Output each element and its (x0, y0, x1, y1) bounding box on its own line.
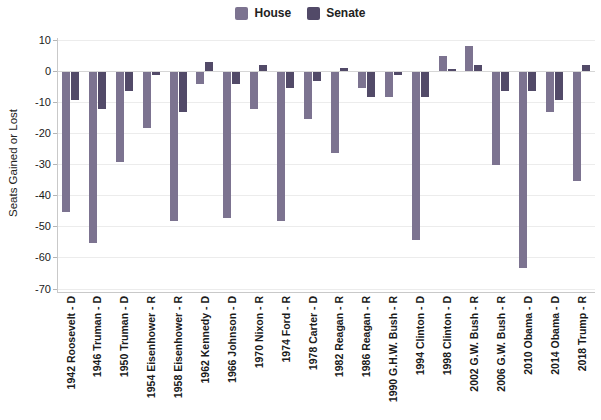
gridline-0 (57, 71, 595, 72)
bar-house-1970 (250, 72, 258, 109)
x-axis-label-1942: 1942 Roosevelt - D (64, 296, 78, 414)
bar-house-2002 (465, 46, 473, 71)
bar-senate-1986 (367, 72, 375, 97)
x-axis-label-1978: 1978 Carter - D (306, 296, 320, 414)
x-axis-label-2018: 2018 Trump - R (575, 296, 589, 414)
bar-house-1990 (385, 72, 393, 97)
bar-senate-1974 (286, 72, 294, 88)
bar-senate-2014 (555, 72, 563, 100)
bar-house-1958 (170, 72, 178, 221)
y-tick-label--60: -60 (15, 250, 51, 264)
bar-senate-1994 (421, 72, 429, 97)
bar-senate-1942 (71, 72, 79, 100)
bar-senate-1978 (313, 72, 321, 81)
x-axis-label-2006: 2006 G.W. Bush - R (494, 296, 508, 414)
gridline--60 (57, 257, 595, 258)
bar-house-1982 (331, 72, 339, 153)
y-tick-label--40: -40 (15, 188, 51, 202)
house-swatch-icon (235, 7, 248, 20)
bar-senate-1990 (394, 72, 402, 75)
y-tick-label--70: -70 (15, 282, 51, 296)
x-axis-label-1958: 1958 Eisenhower - R (171, 296, 185, 414)
bar-senate-1982 (340, 68, 348, 71)
legend-item-senate: Senate (307, 6, 365, 20)
legend-item-house: House (235, 6, 291, 20)
x-axis-label-1954: 1954 Eisenhower - R (144, 296, 158, 414)
bar-senate-2018 (582, 65, 590, 71)
bar-house-1950 (116, 72, 124, 162)
gridline-10 (57, 40, 595, 41)
x-axis-label-1970: 1970 Nixon - R (252, 296, 266, 414)
bar-house-2006 (492, 72, 500, 165)
x-axis-label-1986: 1986 Reagan - R (359, 296, 373, 414)
x-axis-label-1982: 1982 Reagan - R (332, 296, 346, 414)
gridline--20 (57, 133, 595, 134)
y-axis-line (57, 38, 58, 292)
y-tick-label--20: -20 (15, 126, 51, 140)
bar-house-1998 (439, 56, 447, 72)
x-axis-label-1946: 1946 Truman - D (90, 296, 104, 414)
bar-house-1942 (62, 72, 70, 212)
bar-senate-2006 (501, 72, 509, 91)
bar-house-1946 (89, 72, 97, 243)
x-axis-label-1998: 1998 Clinton - D (440, 296, 454, 414)
x-axis-label-1966: 1966 Johnson - D (225, 296, 239, 414)
bar-senate-2002 (474, 65, 482, 71)
legend-label-house: House (254, 6, 291, 20)
bar-senate-1950 (125, 72, 133, 91)
x-axis-label-1962: 1962 Kennedy - D (198, 296, 212, 414)
bar-senate-1954 (152, 72, 160, 75)
x-axis-label-1990: 1990 G.H.W. Bush - R (386, 296, 400, 414)
x-axis-label-1974: 1974 Ford - R (279, 296, 293, 414)
bar-house-1974 (277, 72, 285, 221)
x-axis-line (57, 292, 595, 293)
legend-label-senate: Senate (326, 6, 365, 20)
bar-house-1954 (143, 72, 151, 128)
x-axis-label-1994: 1994 Clinton - D (413, 296, 427, 414)
y-tick-label--10: -10 (15, 95, 51, 109)
bar-senate-1970 (259, 65, 267, 71)
bar-house-2018 (573, 72, 581, 181)
y-tick-label-10: 10 (15, 33, 51, 47)
bar-house-2010 (519, 72, 527, 268)
y-tick-label--30: -30 (15, 157, 51, 171)
senate-swatch-icon (307, 7, 320, 20)
y-tick-label--50: -50 (15, 219, 51, 233)
bar-house-1994 (412, 72, 420, 240)
x-axis-label-1950: 1950 Truman - D (117, 296, 131, 414)
bar-house-1962 (196, 72, 204, 84)
gridline--70 (57, 289, 595, 290)
bar-house-2014 (546, 72, 554, 112)
gridline--40 (57, 195, 595, 196)
bar-senate-1946 (98, 72, 106, 109)
legend: House Senate (0, 6, 601, 20)
bar-senate-1962 (205, 62, 213, 71)
gridline--50 (57, 226, 595, 227)
gridline--10 (57, 102, 595, 103)
bar-senate-1966 (232, 72, 240, 84)
midterm-seat-change-chart: House Senate Seats Gained or Lost 100-10… (0, 0, 601, 420)
bar-house-1978 (304, 72, 312, 119)
y-tick-label-0: 0 (15, 64, 51, 78)
bar-senate-1998 (448, 69, 456, 71)
gridline--30 (57, 164, 595, 165)
x-axis-label-2010: 2010 Obama - D (521, 296, 535, 414)
bar-house-1986 (358, 72, 366, 88)
bar-senate-1958 (179, 72, 187, 112)
bar-senate-2010 (528, 72, 536, 91)
x-axis-label-2002: 2002 G.W. Bush - R (467, 296, 481, 414)
bar-house-1966 (223, 72, 231, 218)
x-axis-label-2014: 2014 Obama - D (548, 296, 562, 414)
